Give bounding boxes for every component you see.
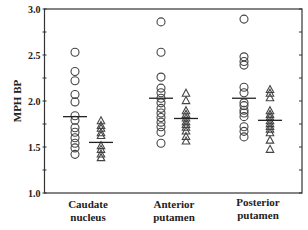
category-label: Anterior [154, 198, 195, 210]
category-label: Caudate [68, 198, 108, 210]
y-tick-label: 2.0 [28, 96, 41, 107]
circle-marker [157, 48, 165, 56]
circle-marker [157, 139, 165, 147]
y-tick-label: 2.5 [28, 50, 41, 61]
circle-marker [71, 124, 79, 132]
circle-marker [71, 112, 79, 120]
x-axis-category-labels: CaudatenucleusAnteriorputamenPosteriorpu… [68, 196, 280, 223]
circle-marker [157, 109, 165, 117]
circle-marker [157, 128, 165, 136]
y-axis-title: MPH BP [11, 79, 23, 122]
triangle-marker [182, 97, 190, 104]
y-axis-ticks [43, 9, 303, 193]
scatter-chart: 1.01.52.02.53.0 MPH BP CaudatenucleusAnt… [0, 0, 308, 230]
triangle-marker [182, 89, 190, 96]
circle-marker [71, 98, 79, 106]
circle-marker [240, 53, 248, 61]
circle-marker [71, 139, 79, 147]
plot-border [45, 9, 303, 193]
circle-marker [71, 48, 79, 56]
category-label: nucleus [70, 211, 106, 223]
category-label: putamen [153, 211, 195, 223]
mean-lines [63, 98, 282, 142]
category-label: Posterior [236, 196, 279, 208]
triangle-marker [266, 145, 274, 152]
circle-marker [240, 123, 248, 131]
triangle-marker [266, 136, 274, 143]
circle-marker [157, 104, 165, 112]
category-label: putamen [237, 209, 279, 221]
y-axis-tick-labels: 1.01.52.02.53.0 [28, 4, 41, 199]
circle-marker [157, 114, 165, 122]
circle-marker [157, 118, 165, 126]
circle-marker [157, 84, 165, 92]
circle-marker [157, 18, 165, 26]
circle-marker [240, 89, 248, 97]
circle-marker [71, 77, 79, 85]
circle-marker [240, 15, 248, 23]
circle-marker [240, 133, 248, 141]
circle-marker [157, 73, 165, 81]
data-points [71, 15, 274, 161]
y-tick-label: 3.0 [28, 4, 41, 15]
y-tick-label: 1.5 [28, 142, 41, 153]
circle-marker [71, 91, 79, 99]
plot-frame [45, 9, 303, 193]
circle-marker [71, 68, 79, 76]
circle-marker [71, 116, 79, 124]
y-tick-label: 1.0 [28, 188, 41, 199]
